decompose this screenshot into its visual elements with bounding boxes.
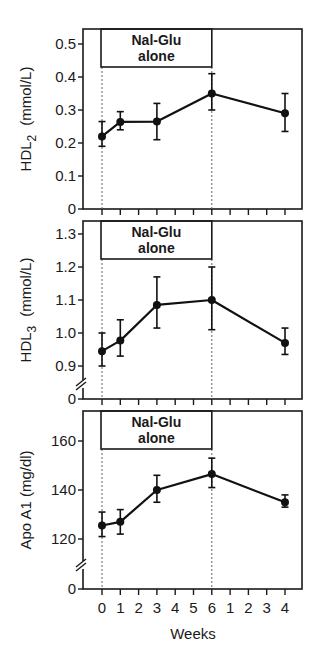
y-tick-label: 1.1 [55,291,76,308]
data-marker [153,486,161,494]
data-marker [281,109,289,117]
x-tick-label: 3 [263,599,271,616]
data-marker [116,337,124,345]
data-marker [116,118,124,126]
y-axis-title: HDL2(mmol/L) [17,67,39,172]
y-tick-label: 0.4 [55,68,76,85]
y-tick-label: 120 [51,530,76,547]
y-tick-label: 0 [68,390,76,407]
data-point [281,94,289,132]
x-tick-label: 1 [226,599,234,616]
x-axis: 01234561234Weeks [98,599,289,642]
data-point [281,328,289,354]
y-tick-label: 1.2 [55,258,76,275]
data-marker [98,522,106,530]
data-series-line [102,300,285,351]
y-axis-title-unit: (mmol/L) [17,67,34,126]
panel-hdl3: 00.91.01.11.21.3Nal-GlualoneHDL3(mmol/L) [17,221,302,407]
treatment-label-line2: alone [138,240,175,256]
data-point [98,122,106,147]
treatment-label-line2: alone [138,430,175,446]
data-marker [208,90,216,98]
x-tick-label: 4 [171,599,179,616]
y-tick-label: 0.3 [55,101,76,118]
y-axis-title: Apo A1 (mg/dl) [17,450,34,549]
x-tick-label: 6 [208,599,216,616]
y-tick-label: 1.0 [55,324,76,341]
y-tick-label: 0 [68,200,76,217]
data-marker [98,132,106,140]
y-tick-label: 140 [51,481,76,498]
plot-frame [83,411,302,589]
y-axis-title-main: HDL [17,332,34,362]
data-point [153,475,161,502]
x-tick-label: 2 [134,599,142,616]
y-axis-title-unit: (mmol/L) [17,258,34,317]
data-point [116,320,124,356]
data-point [208,458,216,487]
x-tick-label: 2 [244,599,252,616]
x-axis-title: Weeks [170,625,216,642]
panel-hdl2: 00.10.20.30.40.5Nal-GlualoneHDL2(mmol/L) [17,29,302,217]
plot-frame [83,29,302,209]
data-marker [208,296,216,304]
x-tick-label: 3 [153,599,161,616]
y-tick-label: 160 [51,432,76,449]
x-tick-label: 4 [281,599,289,616]
y-tick-label: 0.2 [55,134,76,151]
data-point [116,112,124,130]
data-marker [98,347,106,355]
data-marker [281,498,289,506]
y-tick-label: 1.3 [55,225,76,242]
x-tick-label: 0 [98,599,106,616]
data-marker [281,339,289,347]
data-point [153,103,161,139]
data-series-line [102,474,285,525]
data-point [98,512,106,537]
treatment-label-line1: Nal-Glu [132,32,182,48]
data-point [153,277,161,328]
data-point [281,495,289,507]
treatment-label-line1: Nal-Glu [132,414,182,430]
chart-figure: 00.10.20.30.40.5Nal-GlualoneHDL2(mmol/L)… [0,0,321,663]
plot-frame [83,221,302,399]
y-tick-label: 0.9 [55,357,76,374]
data-point [98,333,106,366]
y-axis-title: HDL3(mmol/L) [17,258,39,363]
y-tick-label: 0.5 [55,35,76,52]
y-axis-title-subscript: 3 [25,325,39,332]
data-marker [153,118,161,126]
data-marker [208,470,216,478]
x-tick-label: 1 [116,599,124,616]
data-point [116,510,124,534]
treatment-label-line2: alone [138,48,175,64]
x-tick-label: 5 [189,599,197,616]
y-tick-label: 0.1 [55,167,76,184]
data-point [208,74,216,110]
panel-apo-a1: 0120140160Nal-GlualoneApo A1 (mg/dl) [17,411,302,597]
y-axis-title-subscript: 2 [25,134,39,141]
y-tick-label: 0 [68,580,76,597]
data-marker [153,301,161,309]
treatment-label-line1: Nal-Glu [132,224,182,240]
y-axis-title-main: HDL [17,141,34,171]
data-marker [116,518,124,526]
data-point [208,267,216,330]
data-series-line [102,94,285,137]
